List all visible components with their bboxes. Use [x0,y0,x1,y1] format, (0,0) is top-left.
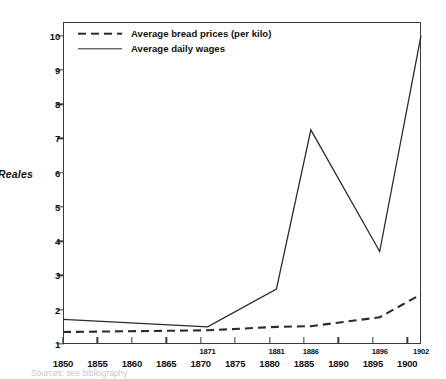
plot-area [63,22,421,344]
x-axis-label-1875: 1875 [225,358,245,369]
x-tick-mark-1870 [200,337,201,344]
y-tick-label-5: 5 [38,201,60,212]
x-axis-datapoint-label-1881: 1881 [268,347,284,356]
y-tick-label-3: 3 [38,270,60,281]
x-axis-label-1880: 1880 [259,358,279,369]
legend-swatch-dashed-icon [78,29,122,39]
x-tick-mark-1880 [269,337,270,344]
legend-item-bread-prices: Average bread prices (per kilo) [78,26,308,41]
y-tick-label-2: 2 [38,304,60,315]
x-axis-label-1900: 1900 [397,358,417,369]
legend-swatch-solid-icon [78,44,122,54]
y-tick-label-6: 6 [38,167,60,178]
x-tick-mark-1885 [303,337,304,344]
y-tick-label-8: 8 [38,99,60,110]
y-tick-label-9: 9 [38,64,60,75]
x-tick-mark-1865 [166,337,167,344]
chart-figure: Reales 12345678910 185018551860186518701… [0,0,446,379]
x-axis-datapoint-label-1896: 1896 [372,347,388,356]
x-axis-label-1890: 1890 [328,358,348,369]
x-tick-mark-1900 [407,337,408,344]
y-tick-label-7: 7 [38,133,60,144]
x-axis-label-1895: 1895 [363,358,383,369]
y-tick-label-1: 1 [38,339,60,350]
x-tick-mark-1890 [338,337,339,344]
y-tick-label-10: 10 [38,30,60,41]
x-axis-label-1885: 1885 [294,358,314,369]
figure-caption: Sources: see bibliography [31,368,127,378]
x-tick-mark-1850 [62,337,63,344]
x-tick-mark-1855 [97,337,98,344]
x-axis-datapoint-label-1886: 1886 [303,347,319,356]
x-axis-label-1865: 1865 [156,358,176,369]
x-tick-mark-1875 [234,337,235,344]
legend-item-daily-wages: Average daily wages [78,41,308,56]
x-axis-label-1870: 1870 [191,358,211,369]
x-tick-mark-1860 [131,337,132,344]
y-tick-label-4: 4 [38,236,60,247]
x-tick-mark-1895 [372,337,373,344]
legend-label-daily-wages: Average daily wages [131,43,225,54]
x-axis-datapoint-label-1902: 1902 [413,347,429,356]
chart-legend: Average bread prices (per kilo) Average … [78,26,308,56]
legend-label-bread-prices: Average bread prices (per kilo) [131,28,271,39]
x-axis-datapoint-label-1871: 1871 [200,347,216,356]
